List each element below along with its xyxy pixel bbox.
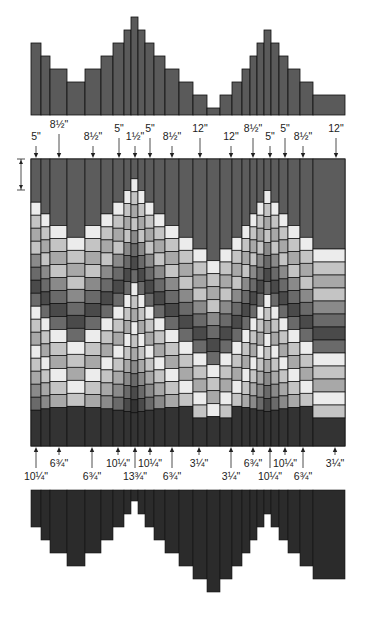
grid-cell bbox=[271, 319, 279, 332]
arrowhead-icon bbox=[229, 447, 233, 452]
grid-cell bbox=[101, 370, 113, 383]
grid-cell bbox=[138, 386, 145, 399]
grid-cell bbox=[271, 358, 279, 371]
grid-cell bbox=[31, 254, 41, 267]
grid-cell bbox=[124, 295, 131, 308]
cut-size-label: 3¼" bbox=[190, 457, 209, 469]
top-bar bbox=[207, 108, 220, 115]
grid-cell bbox=[85, 239, 101, 252]
grid-cell bbox=[300, 393, 313, 406]
grid-cell bbox=[207, 287, 220, 300]
grid-cell bbox=[41, 227, 50, 240]
grid-cell bbox=[85, 317, 101, 330]
arrowhead-icon bbox=[251, 447, 255, 452]
bottom-bar bbox=[50, 490, 67, 553]
grid-cell bbox=[113, 293, 124, 306]
cut-size-label: 12" bbox=[328, 122, 344, 134]
grid-cell bbox=[271, 202, 279, 215]
grid-cell bbox=[250, 227, 257, 240]
grid-top-block bbox=[179, 159, 193, 237]
grid-cell bbox=[154, 370, 165, 383]
grid-cell bbox=[313, 405, 345, 418]
grid-cell bbox=[154, 357, 165, 370]
top-cut-labels: 5"8½"8½"5"1½"5"8½"12"12"8½"5"5"8½"12" bbox=[31, 118, 344, 158]
grid-cell bbox=[232, 315, 242, 328]
cut-size-label: 8½" bbox=[294, 130, 313, 142]
grid-cell bbox=[193, 314, 207, 327]
arrowhead-icon bbox=[170, 153, 174, 158]
grid-cell bbox=[50, 252, 67, 265]
grid-cell bbox=[41, 292, 50, 305]
grid-cell bbox=[250, 214, 257, 227]
grid-cell bbox=[41, 279, 50, 292]
grid-cell bbox=[31, 280, 41, 293]
grid-cell bbox=[257, 254, 264, 267]
grid-cell bbox=[85, 382, 101, 395]
grid-cell bbox=[131, 309, 138, 322]
grid-cell bbox=[131, 296, 138, 309]
grid-bottom-block bbox=[124, 412, 131, 447]
grid-cell bbox=[165, 343, 179, 356]
grid-cell bbox=[193, 379, 207, 392]
grid-cell bbox=[124, 334, 131, 347]
grid-cell bbox=[41, 240, 50, 253]
grid-cell bbox=[313, 249, 345, 262]
grid-cell bbox=[279, 357, 288, 370]
arrowhead-icon bbox=[283, 153, 287, 158]
grid-cell bbox=[271, 306, 279, 319]
grid-cell bbox=[31, 267, 41, 280]
grid-cell bbox=[124, 360, 131, 373]
grid-cell bbox=[145, 267, 154, 280]
grid-cell bbox=[67, 237, 85, 250]
grid-cell bbox=[67, 393, 85, 406]
arrowhead-icon bbox=[197, 447, 201, 452]
grid-cell bbox=[131, 179, 138, 192]
quilt-pattern-diagram: 5"8½"8½"5"1½"5"8½"12"12"8½"5"5"8½"12" 10… bbox=[0, 0, 365, 617]
grid-cell bbox=[41, 344, 50, 357]
top-bar bbox=[288, 69, 300, 115]
top-bar bbox=[113, 43, 124, 115]
grid-cell bbox=[193, 366, 207, 379]
grid-cell bbox=[300, 250, 313, 263]
grid-cell bbox=[300, 354, 313, 367]
grid-cell bbox=[145, 319, 154, 332]
grid-cell bbox=[271, 371, 279, 384]
grid-cell bbox=[193, 301, 207, 314]
grid-cell bbox=[154, 227, 165, 240]
grid-cell bbox=[131, 257, 138, 270]
grid-cell bbox=[288, 226, 300, 239]
grid-cell bbox=[31, 202, 41, 215]
grid-cell bbox=[113, 319, 124, 332]
grid-cell bbox=[300, 237, 313, 250]
arrowhead-icon bbox=[268, 153, 272, 158]
grid-cell bbox=[124, 399, 131, 412]
grid-cell bbox=[145, 345, 154, 358]
grid-cell bbox=[220, 366, 232, 379]
grid-bottom-block bbox=[207, 417, 220, 446]
grid-top-block bbox=[124, 159, 131, 191]
grid-cell bbox=[242, 395, 250, 408]
cut-size-label: 6¾" bbox=[294, 470, 313, 482]
grid-cell bbox=[138, 295, 145, 308]
grid-cell bbox=[113, 306, 124, 319]
grid-cell bbox=[101, 344, 113, 357]
grid-cell bbox=[207, 326, 220, 339]
grid-cell bbox=[113, 267, 124, 280]
grid-cell bbox=[250, 292, 257, 305]
cut-size-label: 3¼" bbox=[222, 470, 241, 482]
cut-size-label: 10¼" bbox=[273, 457, 297, 469]
grid-bottom-block bbox=[50, 408, 67, 446]
top-bar bbox=[50, 69, 67, 115]
grid-bottom-block bbox=[138, 412, 145, 447]
top-bar bbox=[179, 82, 193, 115]
top-bar bbox=[257, 43, 264, 115]
grid-cell bbox=[138, 399, 145, 412]
grid-cell bbox=[101, 253, 113, 266]
grid-cell bbox=[220, 340, 232, 353]
grid-cell bbox=[207, 339, 220, 352]
grid-cell bbox=[41, 253, 50, 266]
grid-cell bbox=[138, 347, 145, 360]
grid-cell bbox=[220, 327, 232, 340]
grid-cell bbox=[220, 288, 232, 301]
grid-cell bbox=[279, 331, 288, 344]
